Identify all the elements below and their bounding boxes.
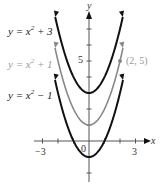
point-label: (2, 5) bbox=[126, 56, 148, 66]
tick-label-5: 5 bbox=[78, 55, 83, 65]
point-marker bbox=[118, 59, 122, 63]
arrowhead-icon bbox=[119, 74, 124, 80]
arrowhead-icon bbox=[119, 11, 124, 17]
x-axis bbox=[34, 138, 151, 144]
label-x2-plus-3: y = x2 + 3 bbox=[8, 22, 53, 37]
arrowhead-icon bbox=[54, 42, 59, 48]
tick-label-3: 3 bbox=[132, 147, 137, 157]
arrowhead-icon bbox=[54, 74, 59, 80]
x-axis-label: x bbox=[151, 136, 155, 146]
tick-label-neg3: −3 bbox=[35, 147, 46, 157]
y-axis-label: y bbox=[87, 1, 91, 11]
arrowhead-icon bbox=[54, 11, 59, 17]
arrowhead-icon bbox=[119, 42, 124, 48]
label-x2-minus-1: y = x2 − 1 bbox=[8, 86, 53, 101]
label-x2-plus-1: y = x2 + 1 bbox=[8, 55, 53, 70]
origin-label: 0 bbox=[81, 144, 86, 154]
